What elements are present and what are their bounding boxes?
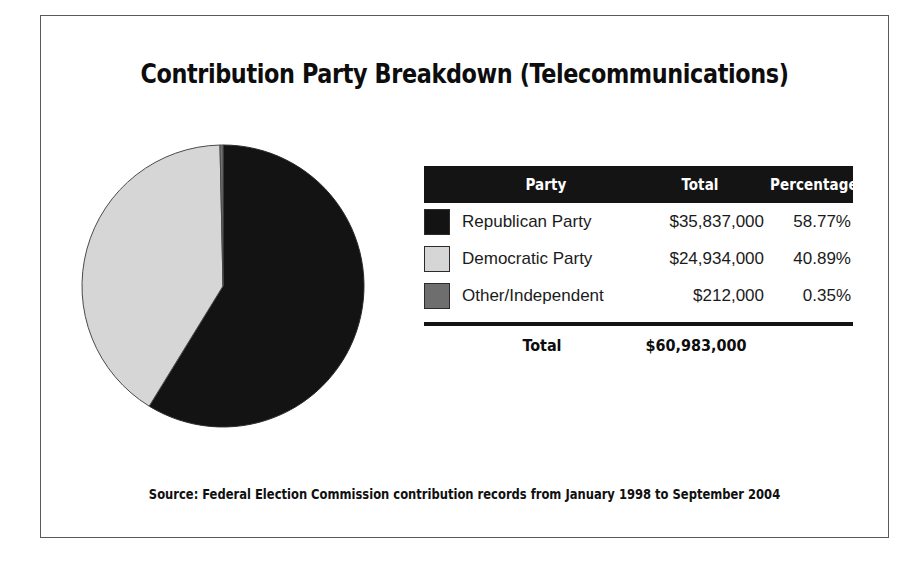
table-cell-total: $35,837,000 (630, 212, 770, 232)
table-cell-party: Democratic Party (458, 249, 630, 269)
contribution-table: Party Total Percentage Republican Party … (424, 166, 853, 362)
table-total-label: Total (458, 336, 626, 355)
table-total-row: Total $60,983,000 (424, 328, 853, 362)
legend-swatch-cell (424, 209, 458, 235)
legend-swatch-cell (424, 283, 458, 309)
table-cell-party: Republican Party (458, 212, 630, 232)
page-canvas: Contribution Party Breakdown (Telecommun… (0, 0, 921, 565)
table-header-row: Party Total Percentage (424, 166, 853, 203)
table-header-total: Total (630, 176, 770, 194)
legend-swatch-republican (424, 209, 450, 235)
table-row: Other/Independent $212,000 0.35% (424, 277, 853, 314)
source-note: Source: Federal Election Commission cont… (62, 486, 867, 502)
table-cell-total: $212,000 (630, 286, 770, 306)
table-cell-percentage: 0.35% (770, 286, 857, 306)
page-title: Contribution Party Breakdown (Telecommun… (75, 58, 854, 89)
chart-frame: Contribution Party Breakdown (Telecommun… (40, 15, 889, 538)
legend-swatch-cell (424, 246, 458, 272)
table-cell-total: $24,934,000 (630, 249, 770, 269)
table-row: Republican Party $35,837,000 58.77% (424, 203, 853, 240)
table-header-percentage: Percentage (770, 176, 860, 194)
table-header-party: Party (458, 176, 630, 194)
table-total-value: $60,983,000 (626, 336, 766, 355)
legend-swatch-democratic (424, 246, 450, 272)
table-row: Democratic Party $24,934,000 40.89% (424, 240, 853, 277)
table-cell-percentage: 40.89% (770, 249, 857, 269)
table-cell-party: Other/Independent (458, 286, 630, 306)
table-cell-percentage: 58.77% (770, 212, 857, 232)
legend-swatch-other (424, 283, 450, 309)
pie-chart (80, 143, 366, 429)
table-total-divider (424, 322, 853, 326)
